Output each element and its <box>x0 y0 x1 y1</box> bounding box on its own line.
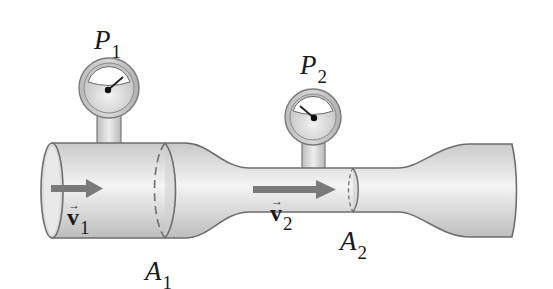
label-p1: P1 <box>94 27 121 54</box>
label-v2: → v2 <box>270 201 293 225</box>
vector-arrow-icon: → <box>68 199 80 211</box>
label-p2: P2 <box>300 52 327 79</box>
label-a2: A2 <box>340 228 367 255</box>
label-v1: → v1 <box>67 205 90 229</box>
gauge-2 <box>285 89 341 145</box>
venturi-tube-diagram <box>0 0 553 289</box>
vector-arrow-icon: → <box>271 195 283 207</box>
label-a1: A1 <box>145 258 172 285</box>
gauge-1 <box>79 58 139 118</box>
gauge-1-stem <box>97 114 121 146</box>
